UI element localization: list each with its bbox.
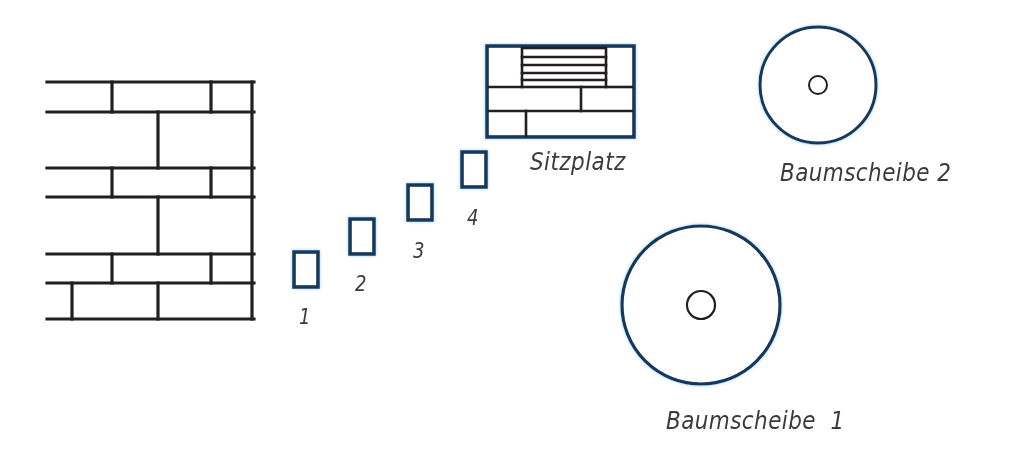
tree-disc-2[interactable]: [760, 27, 876, 143]
seating-area-shape[interactable]: [487, 46, 634, 137]
tree-disc-2-trunk-circle: [809, 76, 827, 94]
seating-area-label: Sitzplatz: [530, 147, 626, 176]
stepping-stone-3[interactable]: [408, 185, 432, 220]
stepping-stone-1[interactable]: [294, 252, 318, 287]
plan-canvas: 1 2 3 4 Sitzplatz Baumscheibe 1 Baumsche…: [0, 0, 1011, 450]
brick-wall: [47, 82, 254, 319]
stepping-stone-2[interactable]: [350, 219, 374, 254]
stepping-stone-4[interactable]: [462, 152, 486, 187]
stepping-stone-4-label: 4: [467, 206, 479, 230]
tree-disc-1-label: Baumscheibe 1: [666, 406, 845, 435]
tree-disc-1[interactable]: [622, 226, 780, 384]
tree-disc-1-trunk-circle: [687, 291, 715, 319]
tree-disc-2-label: Baumscheibe 2: [780, 158, 951, 187]
stepping-stone-group: [294, 152, 486, 287]
stepping-stone-1-label: 1: [299, 305, 311, 329]
site-plan-drawing: [0, 0, 1011, 450]
stepping-stone-3-label: 3: [413, 239, 425, 263]
stepping-stone-2-label: 2: [355, 272, 367, 296]
